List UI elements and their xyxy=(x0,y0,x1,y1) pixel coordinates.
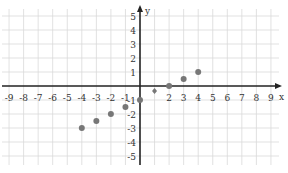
x-tick-label: -7 xyxy=(34,93,43,103)
x-tick-label: -6 xyxy=(48,93,57,103)
y-tick-label: -4 xyxy=(127,138,136,148)
x-tick-label: -2 xyxy=(107,93,116,103)
y-tick-label: 5 xyxy=(130,12,136,22)
x-tick-label: 7 xyxy=(239,93,245,103)
coordinate-plane-chart: -9-8-7-6-5-4-3-2-12345678954321-1-2-3-4-… xyxy=(0,0,288,173)
y-axis-label: y xyxy=(144,6,151,16)
y-tick-label: -1 xyxy=(127,96,136,106)
y-tick-label: 4 xyxy=(130,26,136,36)
y-tick-label: -3 xyxy=(127,124,136,134)
x-tick-label: -4 xyxy=(77,93,86,103)
data-point xyxy=(108,111,114,117)
data-point xyxy=(181,76,187,82)
y-axis-arrow-icon xyxy=(137,5,143,12)
data-point xyxy=(137,97,143,103)
x-tick-label: -9 xyxy=(5,93,14,103)
data-point xyxy=(79,125,85,131)
x-axis-arrow-icon xyxy=(275,83,282,89)
x-tick-label: -3 xyxy=(92,93,101,103)
y-tick-label: -2 xyxy=(127,110,136,120)
axes xyxy=(2,5,282,165)
x-tick-label: 6 xyxy=(224,93,230,103)
x-tick-label: 3 xyxy=(181,93,187,103)
y-tick-label: 2 xyxy=(130,54,136,64)
x-tick-label: 2 xyxy=(166,93,172,103)
y-tick-label: -5 xyxy=(127,152,136,162)
y-tick-label: 3 xyxy=(130,40,136,50)
data-point xyxy=(166,83,172,89)
data-point xyxy=(122,104,128,110)
x-axis-label: x xyxy=(279,92,284,102)
x-tick-label: -5 xyxy=(63,93,72,103)
x-tick-label: 5 xyxy=(210,93,216,103)
x-tick-label: 8 xyxy=(254,93,260,103)
x-tick-label: 4 xyxy=(195,93,201,103)
y-tick-label: 1 xyxy=(130,68,136,78)
x-tick-label: -8 xyxy=(19,93,28,103)
data-point xyxy=(93,118,99,124)
data-point xyxy=(195,69,201,75)
x-tick-label: 9 xyxy=(268,93,274,103)
data-point xyxy=(152,88,157,94)
